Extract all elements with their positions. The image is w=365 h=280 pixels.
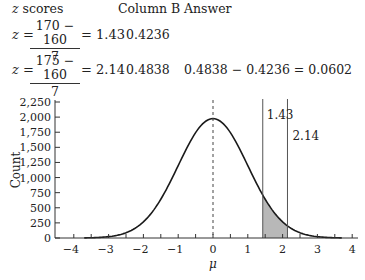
y-tick-label: 0: [44, 232, 51, 245]
y-tick-label: 1,250: [20, 156, 52, 169]
y-tick-label: 250: [30, 217, 51, 230]
x-tick-label: −4: [63, 243, 79, 256]
y-tick-label: 1,000: [20, 172, 52, 185]
y-ticks: 02505007501,0001,2501,5001,7502,0002,250: [20, 96, 61, 245]
x-tick-label: 3: [314, 243, 321, 256]
x-tick-label: 4: [349, 243, 356, 256]
y-tick-label: 1,500: [20, 141, 52, 154]
x-axis-label: μ: [209, 257, 217, 271]
y-tick-label: 500: [30, 202, 51, 215]
x-tick-label: −2: [132, 243, 148, 256]
y-tick-label: 1,750: [20, 126, 52, 139]
x-tick-label: 0: [210, 243, 217, 256]
z-line-2-label: 2.14: [292, 129, 319, 143]
y-tick-label: 2,000: [20, 111, 52, 124]
normal-distribution-chart: 1.43 2.14 02505007501,0001,2501,5001,750…: [0, 0, 365, 280]
y-axis-label: Count: [9, 151, 23, 188]
z-line-1-label: 1.43: [267, 108, 294, 122]
x-tick-label: −1: [167, 243, 183, 256]
y-tick-label: 750: [30, 187, 51, 200]
x-tick-label: −3: [97, 243, 113, 256]
y-tick-label: 2,250: [20, 96, 52, 109]
x-tick-label: 2: [279, 243, 286, 256]
x-tick-label: 1: [244, 243, 251, 256]
